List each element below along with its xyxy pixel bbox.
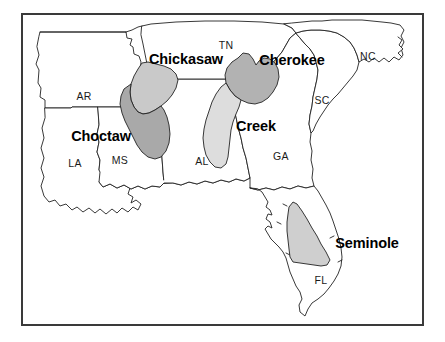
map-figure: AR LA MS AL TN GA SC NC FL Chickasaw Cho… [0,0,445,342]
tribe-label-seminole: Seminole [335,235,399,251]
state-label-sc: SC [314,94,329,106]
state-label-ar: AR [76,90,91,102]
tribe-label-cherokee: Cherokee [259,52,324,68]
state-label-la: LA [68,157,81,169]
tribe-label-choctaw: Choctaw [71,128,131,144]
state-label-tn: TN [219,39,234,51]
state-label-nc: NC [360,50,376,62]
tribe-label-creek: Creek [236,118,276,134]
state-label-al: AL [195,155,208,167]
state-label-ga: GA [273,150,289,162]
state-label-ms: MS [112,154,128,166]
state-label-fl: FL [315,274,328,286]
state-outline-tn-north [126,26,142,32]
tribe-label-chickasaw: Chickasaw [149,51,223,67]
